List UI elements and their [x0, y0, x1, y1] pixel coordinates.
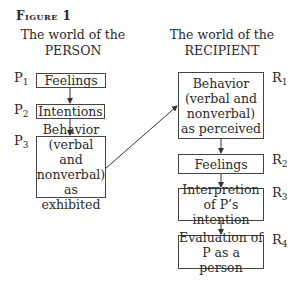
- node-label-p1: P1: [14, 70, 28, 87]
- node-p2-text: Intentions: [38, 104, 102, 119]
- node-r4-evaluation: Evaluation of P as a person: [178, 235, 264, 269]
- node-p3-behavior-exhibited: Behavior (verbal and nonverbal) as exhib…: [36, 136, 106, 198]
- node-r1-behavior-perceived: Behavior (verbal and nonverbal) as perce…: [178, 72, 264, 139]
- node-p1-text: Feelings: [44, 73, 97, 88]
- node-r1-line3: nonverbal): [187, 106, 255, 121]
- node-r3-line2: of P’s intention: [179, 197, 263, 227]
- node-p1-feelings: Feelings: [36, 73, 106, 88]
- node-r4-line1: Evaluation of: [179, 230, 263, 245]
- node-r1-line2: (verbal and: [185, 91, 257, 106]
- node-p3-line4: as exhibited: [37, 182, 105, 212]
- node-p3-line1: Behavior: [43, 122, 100, 137]
- node-label-p3: P3: [14, 133, 28, 150]
- node-label-r1: R1: [272, 70, 288, 87]
- node-r3-line1: Interpretion: [182, 182, 259, 197]
- node-r1-line1: Behavior: [193, 76, 250, 91]
- node-p3-line2: (verbal and: [37, 137, 105, 167]
- node-label-r4: R4: [272, 232, 288, 249]
- node-r2-feelings: Feelings: [178, 154, 264, 174]
- node-p2-intentions: Intentions: [36, 104, 105, 119]
- node-label-p2: P2: [14, 102, 28, 119]
- node-r2-text: Feelings: [194, 157, 247, 172]
- node-label-r2: R2: [272, 152, 288, 169]
- node-p3-line3: nonverbal): [37, 167, 105, 182]
- node-r3-interpretation: Interpretion of P’s intention: [178, 188, 264, 221]
- node-label-r3: R3: [272, 185, 288, 202]
- node-r1-line4: as perceived: [181, 121, 261, 136]
- node-r4-line2: P as a person: [179, 245, 263, 275]
